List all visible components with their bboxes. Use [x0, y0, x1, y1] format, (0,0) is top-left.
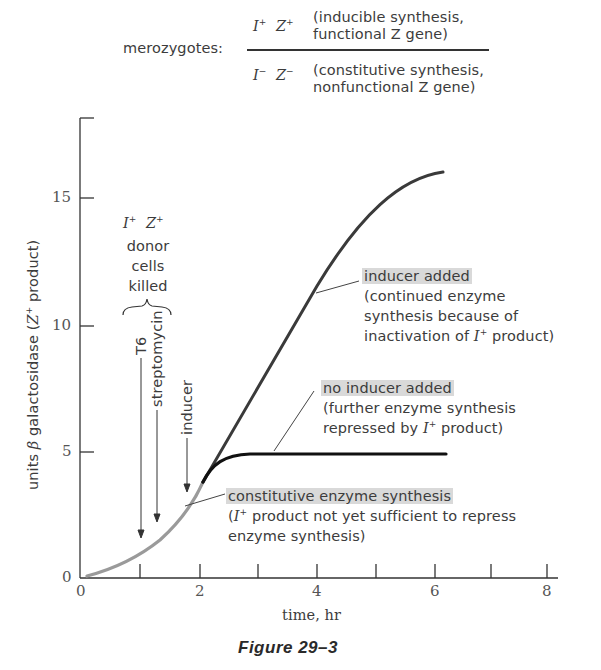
label-inducer: inducer: [179, 380, 196, 435]
y-axis-label: units β galactosidase (Z+ product): [25, 240, 42, 490]
annotation-inducer-added: inducer added (continued enzyme synthesi…: [364, 266, 554, 346]
x-tick-label-4: 4: [312, 582, 322, 600]
x-tick-label-2: 2: [195, 582, 205, 600]
x-tick-label-6: 6: [430, 582, 440, 600]
arrow-t6-head: [138, 530, 144, 538]
label-t6: T6: [133, 337, 150, 355]
x-tick-label-8: 8: [542, 582, 552, 600]
series-no-inducer: [203, 454, 446, 482]
y-tick-label-10: 10: [52, 316, 71, 334]
x-ticks: [140, 564, 547, 578]
x-axis-label: time, hr: [282, 607, 341, 624]
y-tick-label-5: 5: [62, 442, 72, 460]
label-streptomycin: streptomycin: [149, 310, 166, 407]
y-tick-label-15: 15: [52, 188, 71, 206]
y-tick-label-0: 0: [62, 568, 72, 586]
donor-cells-killed: donor cells killed: [120, 236, 176, 296]
leader-no-inducer: [274, 391, 314, 451]
leader-constitutive: [185, 494, 225, 506]
arrow-streptomycin-head: [154, 514, 160, 522]
x-tick-label-0: 0: [76, 582, 86, 600]
series-constitutive: [87, 482, 203, 576]
annotation-constitutive: constitutive enzyme synthesis (I+ produc…: [228, 486, 516, 546]
annotation-no-inducer: no inducer added (further enzyme synthes…: [323, 378, 516, 438]
arrow-inducer-head: [184, 484, 190, 492]
leader-inducer-added: [316, 281, 359, 293]
figure-caption: Figure 29–3: [238, 638, 338, 658]
donor-genotype: I+ Z+: [123, 215, 164, 232]
